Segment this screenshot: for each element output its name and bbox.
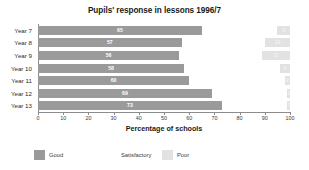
x-axis-tick-label: 40 [136,115,142,121]
bar-row: 691 [38,89,290,98]
legend-label: Satisfactory [121,152,151,158]
x-axis-tick-label: 20 [85,115,91,121]
bar-segment-satisfactory [189,76,285,85]
bar-segment-good: 56 [38,51,179,60]
bar-value-label: 5 [277,26,290,35]
bar-rows: 65557105611584602691731 [38,24,290,112]
x-axis-tick-label: 0 [37,115,40,121]
legend-swatch-poor [162,150,173,160]
bar-value-label: 2 [285,76,290,85]
y-axis-label-year-11: Year 11 [11,76,32,85]
bar-row: 655 [38,26,290,35]
y-axis-category-labels: Year 7Year 8Year 9Year 10Year 11Year 12Y… [0,24,35,112]
legend-item-good[interactable]: Good [34,148,63,162]
bar-segment-satisfactory [179,51,262,60]
bar-segment-poor: 4 [280,64,290,73]
bar-value-label: 57 [38,38,182,47]
bar-row: 731 [38,101,290,110]
x-axis-tick-label: 100 [286,115,295,121]
x-axis-tick-label: 30 [111,115,117,121]
bar-segment-good: 60 [38,76,189,85]
chart-title: Pupils' response in lessons 1996/7 [0,6,309,15]
bar-value-label: 60 [38,76,189,85]
bar-segment-satisfactory [182,38,265,47]
legend-label: Good [49,152,63,158]
bar-segment-good: 57 [38,38,182,47]
bar-row: 5611 [38,51,290,60]
bar-value-label: 1 [287,89,290,98]
bar-row: 602 [38,76,290,85]
bar-segment-poor: 1 [287,101,290,110]
bar-segment-good: 65 [38,26,202,35]
x-axis-tick-label: 90 [262,115,268,121]
bar-segment-good: 73 [38,101,222,110]
bar-segment-poor: 10 [265,38,290,47]
bar-row: 5710 [38,38,290,47]
y-axis-label-year-9: Year 9 [14,51,32,60]
bar-segment-good: 69 [38,89,212,98]
plot-area: 65557105611584602691731 [38,24,290,112]
bar-segment-poor: 2 [285,76,290,85]
x-axis-tick-label: 80 [237,115,243,121]
x-axis-tick-label: 60 [186,115,192,121]
bar-segment-satisfactory [212,89,288,98]
bar-segment-satisfactory [202,26,278,35]
legend-swatch-good [34,150,45,160]
bar-value-label: 1 [287,101,290,110]
bar-segment-poor: 11 [262,51,290,60]
legend-swatch-satisfactory [106,150,117,160]
x-axis-tick-label: 70 [211,115,217,121]
bar-segment-poor: 5 [277,26,290,35]
y-axis-label-year-8: Year 8 [14,38,32,47]
x-axis-tick-label: 50 [161,115,167,121]
legend-item-poor[interactable]: Poor [162,148,189,162]
bar-segment-good: 58 [38,64,184,73]
bar-value-label: 11 [262,51,290,60]
bar-segment-satisfactory [222,101,288,110]
bar-value-label: 58 [38,64,184,73]
x-axis-title: Percentage of schools [38,124,290,133]
legend-item-satisfactory[interactable]: Satisfactory [106,148,151,162]
chart-container: Pupils' response in lessons 1996/7 Year … [0,0,309,170]
y-axis-label-year-7: Year 7 [14,26,32,35]
bar-row: 584 [38,64,290,73]
legend-label: Poor [177,152,189,158]
bar-value-label: 73 [38,101,222,110]
bar-segment-poor: 1 [287,89,290,98]
bar-value-label: 65 [38,26,202,35]
x-axis-tick-label: 10 [60,115,66,121]
bar-segment-satisfactory [184,64,280,73]
bar-value-label: 4 [280,64,290,73]
y-axis-label-year-12: Year 12 [11,89,32,98]
y-axis-label-year-10: Year 10 [11,64,32,73]
bar-value-label: 69 [38,89,212,98]
y-axis-label-year-13: Year 13 [11,101,32,110]
bar-value-label: 56 [38,51,179,60]
bar-value-label: 10 [265,38,290,47]
